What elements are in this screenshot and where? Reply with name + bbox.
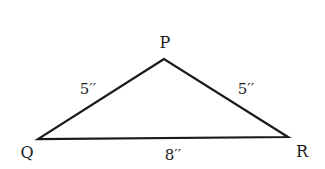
triangle-pqr (38, 59, 288, 139)
side-label-qr: 8′′ (165, 146, 182, 164)
vertex-label-q: Q (20, 143, 33, 162)
side-label-pq: 5′′ (80, 80, 97, 98)
triangle-diagram: P Q R 5′′ 5′′ 8′′ (0, 0, 325, 169)
side-label-pr: 5′′ (238, 80, 255, 98)
vertex-label-p: P (160, 33, 171, 52)
vertex-label-r: R (296, 142, 309, 161)
